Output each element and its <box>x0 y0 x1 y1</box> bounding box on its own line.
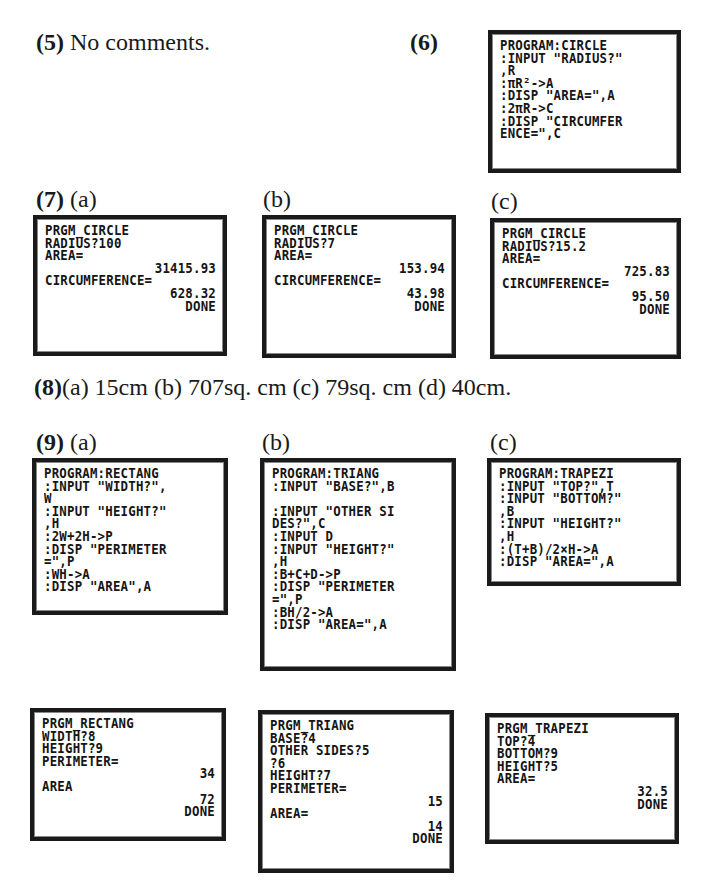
answer-7-number: (7) <box>36 186 64 212</box>
calculator-screen-triang-program: PROGRAM:TRIANG:INPUT "BASE?",B:INPUT "OT… <box>260 458 456 671</box>
answer-7c-label: (c) <box>491 187 518 215</box>
answer-9a-label: (a) <box>70 429 97 455</box>
answer-7b-label: (b) <box>263 185 291 213</box>
answer-5-number: (5) <box>36 29 64 55</box>
answer-9-number: (9) <box>36 429 64 455</box>
screen-line: :DISP "AREA=",A <box>272 618 445 632</box>
answer-8-number: (8) <box>34 374 62 400</box>
calculator-screen-7b-output: PRGM_CIRCLERADIUS?7AREA=153.94CIRCUMFERE… <box>262 215 456 358</box>
screen-line: AREA <box>42 780 215 794</box>
answer-7a-label: (a) <box>70 186 97 212</box>
screen-line: DONE <box>274 300 445 314</box>
screen-line: ENCE=",C <box>500 127 670 141</box>
calculator-screen-rectang-output: PRGM_RECTANGWIDTH?8HEIGHT?9PERIMETER=34A… <box>30 708 226 841</box>
screen-line: PERIMETER= <box>270 782 443 796</box>
answer-6-number-text: (6) <box>410 29 438 55</box>
screen-line: DONE <box>45 300 216 314</box>
answer-5: (5) No comments. <box>36 28 210 56</box>
screen-line: :DISP "AREA",A <box>44 580 217 594</box>
answer-9c-label: (c) <box>490 428 517 456</box>
answer-9b-label: (b) <box>262 428 290 456</box>
screen-line: :DISP "AREA=",A <box>499 555 670 569</box>
screen-line: DONE <box>497 798 668 812</box>
screen-line: DONE <box>502 303 670 317</box>
calculator-screen-trapezi-output: PRGM_TRAPEZITOP?4BOTTOM?9HEIGHT?5AREA=32… <box>485 713 679 844</box>
answer-7-heading: (7) (a) <box>36 185 97 213</box>
calculator-screen-trapezi-program: PROGRAM:TRAPEZI:INPUT "TOP?",T:INPUT "BO… <box>487 458 681 586</box>
screen-line: DONE <box>42 805 215 819</box>
calculator-screen-rectang-program: PROGRAM:RECTANG:INPUT "WIDTH?",W:INPUT "… <box>32 458 228 615</box>
answer-6-number: (6) <box>410 28 438 56</box>
calculator-screen-7c-output: PRGM_CIRCLERADIUS?15.2AREA=725.83CIRCUMF… <box>490 218 681 359</box>
calculator-screen-triang-output: PRGM_TRIANGBASE?4OTHER SIDES?5?6HEIGHT?7… <box>258 710 454 873</box>
calculator-screen-7a-output: PRGM_CIRCLERADIUS?100AREA=31415.93CIRCUM… <box>33 215 227 356</box>
calculator-screen-circle-program: PROGRAM:CIRCLE:INPUT "RADIUS?",R:πR²->A:… <box>488 30 681 173</box>
answer-8: (8)(a) 15cm (b) 707sq. cm (c) 79sq. cm (… <box>34 373 511 401</box>
answer-5-text: No comments. <box>64 29 210 55</box>
answer-8-text: (a) 15cm (b) 707sq. cm (c) 79sq. cm (d) … <box>62 374 511 400</box>
answer-9-heading: (9) (a) <box>36 428 97 456</box>
screen-line: DONE <box>270 832 443 846</box>
